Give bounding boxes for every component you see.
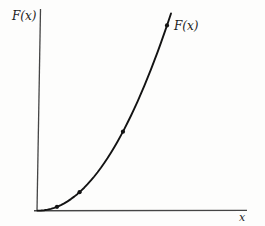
x-axis-label: x: [239, 211, 246, 224]
plot-canvas: F(x) F(x) x: [0, 0, 265, 226]
y-axis-label: F(x): [11, 9, 37, 23]
curve-point-marker: [77, 190, 81, 194]
figure-distribution-function: F(x) F(x) x: [0, 0, 265, 226]
curve-point-marker: [165, 23, 169, 27]
curve-point-marker: [55, 205, 59, 209]
curve-point-marker: [121, 130, 125, 134]
distribution-curve: [38, 14, 172, 211]
curve-point-markers: [55, 23, 169, 209]
curve-label: F(x): [173, 19, 199, 33]
y-axis-line: [37, 9, 41, 211]
